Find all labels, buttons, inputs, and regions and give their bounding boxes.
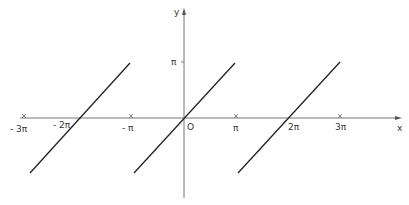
x-tick-label-neg2pi: - 2π <box>53 120 71 130</box>
x-tick-label-pi: π <box>233 123 239 133</box>
x-axis-arrow-icon <box>395 116 402 120</box>
origin-label: O <box>187 122 194 132</box>
x-tick-label-negpi: - π <box>122 123 134 133</box>
x-tick-marks <box>22 114 342 118</box>
y-axis-arrow-icon <box>182 8 186 15</box>
x-axis-label: x <box>397 123 403 133</box>
sawtooth-chart: - 3π - 2π - π O π 2π 3π x y π <box>0 0 409 205</box>
x-tick-label-3pi: 3π <box>335 122 347 132</box>
y-axis-label: y <box>174 7 180 17</box>
x-tick-label-2pi: 2π <box>288 122 300 132</box>
x-tick-label-neg3pi: - 3π <box>10 124 28 134</box>
y-tick-label-pi: π <box>171 57 177 67</box>
